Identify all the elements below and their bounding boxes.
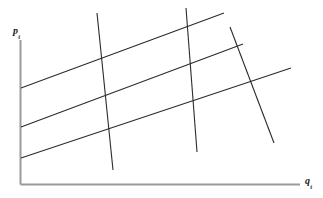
figure-canvas: pt qt [0,0,323,198]
curve-demand-3 [230,27,274,143]
curves-group [21,8,291,170]
curve-supply-1 [21,13,224,88]
axes-group [21,40,301,185]
diagram-svg [0,0,323,198]
y-axis-label-subscript: t [18,33,20,40]
curve-demand-2 [186,8,197,152]
x-axis-label-subscript: t [310,183,312,190]
curve-demand-1 [97,13,113,170]
curve-supply-2 [21,44,243,127]
x-axis-label: qt [305,176,312,189]
y-axis-label: pt [13,26,20,39]
